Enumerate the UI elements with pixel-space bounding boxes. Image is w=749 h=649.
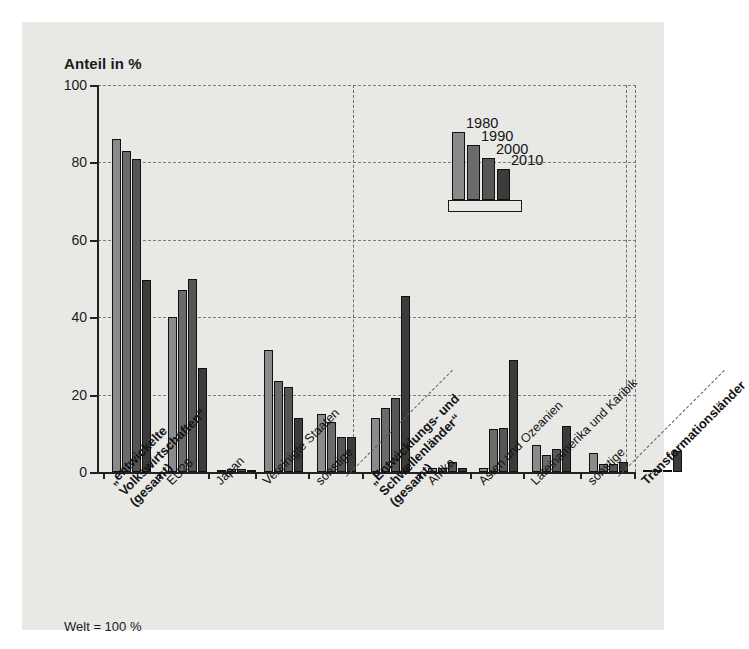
plot-right-frame [635, 85, 636, 472]
x-tick [580, 472, 582, 479]
legend: 1980199020002010 [426, 100, 556, 212]
chart-panel: Anteil in % 020406080100 „entwickelteVol… [22, 22, 664, 630]
y-tick-label-60: 60 [71, 232, 87, 248]
footnote: Welt = 100 % [64, 619, 141, 634]
x-tick [308, 472, 310, 479]
y-tick-label-20: 20 [71, 387, 87, 403]
legend-label-2010: 2010 [511, 152, 543, 168]
y-tick-label-40: 40 [71, 309, 87, 325]
x-tick [634, 472, 636, 479]
y-tick-80 [90, 162, 98, 164]
bar [264, 350, 273, 472]
legend-swatch-2000 [482, 158, 495, 200]
legend-swatch-1990 [467, 145, 480, 200]
bar-group [643, 85, 682, 472]
y-tick-0 [90, 472, 98, 474]
y-tick-label-100: 100 [64, 77, 87, 93]
legend-swatch-1980 [452, 132, 465, 200]
bar-group [112, 85, 151, 472]
x-tick [255, 472, 257, 479]
bar [132, 159, 141, 472]
x-tick [470, 472, 472, 479]
x-tick [208, 472, 210, 479]
bar [458, 468, 467, 472]
bar-group [264, 85, 303, 472]
y-tick-100 [90, 85, 98, 87]
y-tick-label-0: 0 [79, 464, 87, 480]
x-tick [103, 472, 105, 479]
bar [112, 139, 121, 472]
legend-swatch-2010 [497, 169, 510, 200]
y-axis-title: Anteil in % [64, 55, 142, 72]
y-tick-60 [90, 240, 98, 242]
bar-group [371, 85, 410, 472]
legend-baseline [448, 200, 522, 212]
y-axis-line [97, 85, 99, 472]
y-tick-label-80: 80 [71, 154, 87, 170]
x-tick [362, 472, 364, 479]
bar [122, 151, 131, 472]
x-tick [523, 472, 525, 479]
bar-group [217, 85, 256, 472]
y-tick-40 [90, 317, 98, 319]
y-tick-20 [90, 395, 98, 397]
